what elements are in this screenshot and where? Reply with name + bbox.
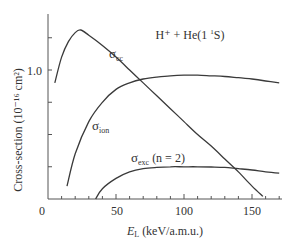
x-axis-label: EL (keV/a.m.u.) — [126, 224, 203, 239]
x-tick-label-150: 150 — [243, 204, 261, 218]
chart-title: H⁺ + He(1 1S) — [156, 28, 225, 42]
sigma-cc-curve — [55, 30, 263, 196]
x-tick-label-100: 100 — [175, 204, 193, 218]
sigma-exc-label: σexc (n = 2) — [131, 150, 185, 167]
sigma-ion-label: σion — [92, 118, 109, 135]
axis-ticks — [48, 38, 279, 199]
x-axis-unit: (keV/a.m.u.) — [139, 224, 203, 238]
y-axis-label: Cross-section (10⁻¹⁶ cm²) — [11, 68, 25, 192]
y-tick-label-1: 1.0 — [27, 64, 42, 78]
x-tick-label-50: 50 — [111, 204, 123, 218]
sigma-cc-label: σcc — [109, 46, 124, 63]
x-tick-label-0: 0 — [39, 204, 45, 218]
cross-section-chart: 0 50 100 150 1.0 Cross-section (10⁻¹⁶ cm… — [0, 0, 295, 241]
